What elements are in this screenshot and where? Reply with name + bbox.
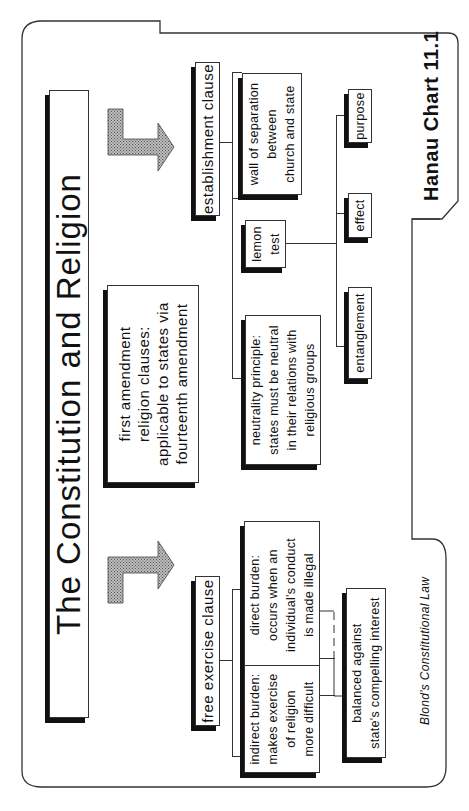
dashed-connector xyxy=(0,0,469,811)
diagram-canvas: The Constitution and Religion first amen… xyxy=(0,0,469,811)
balanced-interest-box: balanced against state's compelling inte… xyxy=(346,588,386,758)
balance-line: state's compelling interest xyxy=(366,597,384,749)
balance-line: balanced against xyxy=(348,623,366,722)
chart-label: Hanau Chart 11.1 xyxy=(420,31,443,201)
credit-text: Blond's Constitutional Law xyxy=(418,577,432,725)
